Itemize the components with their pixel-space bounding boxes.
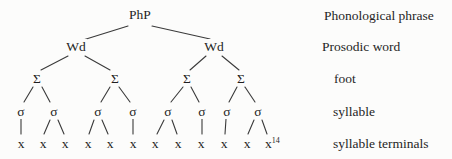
node-terminal-4: x xyxy=(84,136,93,151)
node-syllable-1: σ xyxy=(16,104,25,119)
node-foot-1: Σ xyxy=(32,71,42,86)
node-syllable-6: σ xyxy=(197,104,206,119)
node-foot-3: Σ xyxy=(182,71,192,86)
node-foot-4: Σ xyxy=(236,71,246,86)
node-syllable-8: σ xyxy=(253,104,262,119)
legend-label-prosodic-word: Prosodic word xyxy=(322,39,400,54)
node-syllable-7: σ xyxy=(222,104,231,119)
node-foot-2: Σ xyxy=(110,71,120,86)
node-terminal-2: x xyxy=(39,136,48,151)
node-terminal-9: x xyxy=(197,136,206,151)
legend-label-syllable-terminals: syllable terminals xyxy=(333,136,429,151)
node-wd-2: Wd xyxy=(203,39,225,54)
node-terminal-7: x xyxy=(151,136,160,151)
prosodic-hierarchy-diagram: PhP Wd Wd Σ Σ Σ Σ σ σ σ σ σ σ σ σ x x x … xyxy=(0,0,452,159)
node-wd-1: Wd xyxy=(65,39,87,54)
legend-label-syllable: syllable xyxy=(333,104,375,119)
node-terminal-1: x xyxy=(17,136,26,151)
node-syllable-5: σ xyxy=(163,104,172,119)
node-terminal-8: x xyxy=(174,136,183,151)
node-terminal-3: x xyxy=(61,136,70,151)
node-terminal-10: x xyxy=(220,136,229,151)
footnote-ref-14: 14 xyxy=(272,136,280,145)
node-syllable-2: σ xyxy=(49,104,58,119)
node-terminal-11: x xyxy=(243,136,252,151)
node-terminal-5: x xyxy=(106,136,115,151)
node-syllable-4: σ xyxy=(128,104,137,119)
node-syllable-3: σ xyxy=(93,104,102,119)
legend-label-foot: foot xyxy=(334,71,356,86)
node-php: PhP xyxy=(128,7,152,22)
terminal-letter: x xyxy=(265,136,272,151)
legend-label-phonological-phrase: Phonological phrase xyxy=(324,8,434,23)
node-terminal-12: x14 xyxy=(264,136,281,151)
node-terminal-6: x xyxy=(129,136,138,151)
